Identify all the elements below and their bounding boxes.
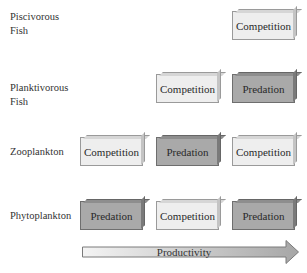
box-phytoplankton-predation-low: Predation	[80, 201, 143, 230]
label-line: Planktivorous	[10, 81, 68, 95]
box-phytoplankton-predation-high: Predation	[232, 201, 295, 230]
label-line: Fish	[10, 24, 59, 38]
box-zooplankton-competition-high: Competition	[232, 137, 295, 166]
box-phytoplankton-competition: Competition	[156, 201, 219, 230]
label-line: Piscivorous	[10, 10, 59, 24]
box-planktivorous-competition: Competition	[156, 74, 219, 103]
productivity-label: Productivity	[82, 245, 286, 259]
box-piscivorous-competition: Competition	[232, 11, 295, 40]
label-piscivorous-fish: Piscivorous Fish	[10, 10, 59, 38]
box-planktivorous-predation: Predation	[232, 74, 295, 103]
label-planktivorous-fish: Planktivorous Fish	[10, 81, 68, 109]
box-zooplankton-competition-low: Competition	[80, 137, 143, 166]
label-line: Fish	[10, 95, 68, 109]
label-phytoplankton: Phytoplankton	[10, 209, 71, 223]
label-zooplankton: Zooplankton	[10, 145, 64, 159]
box-zooplankton-predation: Predation	[156, 137, 219, 166]
